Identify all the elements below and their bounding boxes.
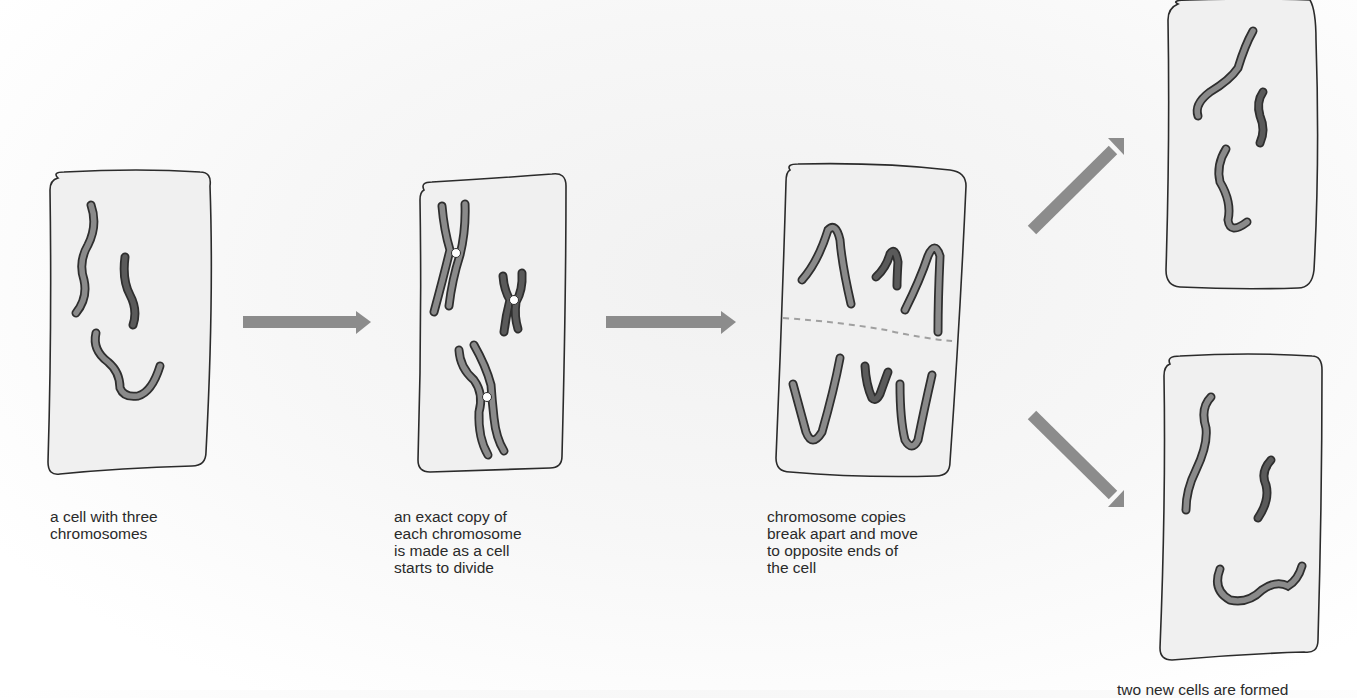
- stage-4-top-cell: [1166, 0, 1318, 289]
- arrow-right-2: [606, 311, 736, 334]
- stage-3-cell: [776, 164, 966, 477]
- stage-4-bottom-cell: [1160, 354, 1322, 660]
- cell-outline: [1166, 0, 1318, 289]
- arrow-up-right: [1032, 138, 1124, 230]
- caption-stage-1: a cell with three chromosomes: [50, 508, 158, 542]
- centromere-icon: [510, 296, 519, 305]
- caption-stage-3: chromosome copies break apart and move t…: [767, 508, 918, 576]
- centromere-icon: [452, 249, 461, 258]
- caption-stage-4: two new cells are formed: [1117, 681, 1288, 698]
- stage-2-cell: [418, 174, 566, 472]
- caption-stage-2: an exact copy of each chromosome is made…: [394, 508, 522, 576]
- arrow-down-right: [1032, 415, 1124, 507]
- arrow-right-1: [243, 311, 371, 334]
- chromosome-dark-1: [1259, 92, 1263, 143]
- centromere-icon: [483, 393, 492, 402]
- stage-1-cell: [48, 170, 211, 474]
